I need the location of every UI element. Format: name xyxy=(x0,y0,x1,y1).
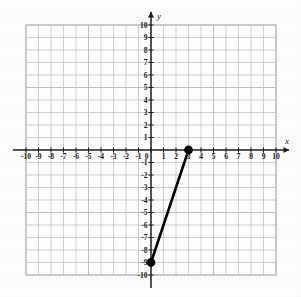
tick-label-y--8: -8 xyxy=(141,246,147,255)
tick-label-y--3: -3 xyxy=(141,183,147,192)
y-axis-arrowhead xyxy=(148,12,154,18)
tick-label-y--2: -2 xyxy=(141,171,147,180)
tick-label-y-10: 10 xyxy=(140,21,148,30)
point-3-0 xyxy=(185,146,192,153)
tick-label-x-9: 9 xyxy=(262,152,266,161)
graph-canvas: xy-10-9-8-7-6-5-4-3-2-101234567891010987… xyxy=(0,0,301,297)
tick-label-y-1: 1 xyxy=(144,133,148,142)
tick-label-x-5: 5 xyxy=(212,152,216,161)
coordinate-plane: xy-10-9-8-7-6-5-4-3-2-101234567891010987… xyxy=(0,0,301,297)
tick-label-y-6: 6 xyxy=(144,71,148,80)
tick-label-y-3: 3 xyxy=(144,108,148,117)
tick-label-y-2: 2 xyxy=(144,121,148,130)
tick-label-x-6: 6 xyxy=(224,152,228,161)
tick-label-x--10: -10 xyxy=(21,152,31,161)
tick-label-x-8: 8 xyxy=(249,152,253,161)
tick-label-y--5: -5 xyxy=(141,208,147,217)
tick-label-y-9: 9 xyxy=(144,33,148,42)
tick-label-x-2: 2 xyxy=(174,152,178,161)
tick-label-y--1: -1 xyxy=(141,158,147,167)
tick-label-x--9: -9 xyxy=(35,152,41,161)
tick-label-x-10: 10 xyxy=(272,152,280,161)
tick-label-x--8: -8 xyxy=(48,152,54,161)
tick-label-y-4: 4 xyxy=(144,96,148,105)
tick-label-x-7: 7 xyxy=(237,152,241,161)
tick-label-y--7: -7 xyxy=(141,233,147,242)
tick-label-y--10: -10 xyxy=(138,271,148,280)
tick-label-x-1: 1 xyxy=(162,152,166,161)
tick-label-y--4: -4 xyxy=(141,196,147,205)
x-axis-arrowhead xyxy=(284,147,290,153)
tick-label-x--6: -6 xyxy=(73,152,79,161)
tick-label-y-5: 5 xyxy=(144,83,148,92)
tick-label-x-4: 4 xyxy=(199,152,203,161)
tick-label-x--3: -3 xyxy=(110,152,116,161)
tick-label-x--2: -2 xyxy=(123,152,129,161)
point-0-neg9 xyxy=(147,259,154,266)
tick-label-x--5: -5 xyxy=(85,152,91,161)
y-axis-label: y xyxy=(156,11,161,21)
x-axis-label: x xyxy=(284,136,289,146)
tick-label-x--7: -7 xyxy=(60,152,66,161)
tick-label-y-7: 7 xyxy=(144,58,148,67)
tick-label-x--4: -4 xyxy=(98,152,104,161)
tick-label-y-8: 8 xyxy=(144,46,148,55)
tick-label-y--6: -6 xyxy=(141,221,147,230)
